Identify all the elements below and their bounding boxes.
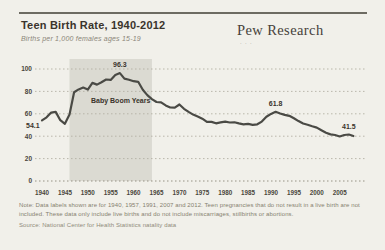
line-chart: 0204060801001940194519501955196019651970…	[18, 55, 374, 203]
chart-source: Source: National Center for Health Stati…	[19, 222, 359, 228]
x-axis-tick-1955: 1955	[104, 189, 119, 196]
x-axis-tick-1980: 1980	[218, 189, 233, 196]
data-label-41.5: 41.5	[342, 123, 356, 130]
chart-title: Teen Birth Rate, 1940-2012	[21, 19, 165, 31]
chart-subtitle: Births per 1,000 females ages 15-19	[21, 35, 141, 42]
teen-birth-rate-chart-canvas: 0204060801001940194519501955196019651970…	[18, 55, 374, 203]
x-axis-tick-1990: 1990	[264, 189, 279, 196]
data-label-54.1: 54.1	[26, 122, 40, 129]
pew-research-logo: Pew Research	[237, 22, 324, 39]
x-axis-tick-1945: 1945	[58, 189, 73, 196]
x-axis-tick-1985: 1985	[241, 189, 256, 196]
y-axis-tick-60: 60	[25, 110, 33, 117]
y-axis-tick-40: 40	[25, 133, 33, 140]
pew-research-logo-subtext: · · ·	[240, 40, 253, 46]
x-axis-tick-1975: 1975	[195, 189, 210, 196]
x-axis-tick-1950: 1950	[81, 189, 96, 196]
x-axis-tick-1970: 1970	[172, 189, 187, 196]
top-divider-rule	[19, 12, 367, 14]
y-axis-tick-100: 100	[21, 65, 32, 72]
baby-boom-shaded-region	[69, 59, 151, 181]
x-axis-tick-1995: 1995	[287, 189, 302, 196]
data-label-61.8: 61.8	[269, 100, 283, 107]
x-axis-tick-1940: 1940	[35, 189, 50, 196]
x-axis-tick-2005: 2005	[333, 189, 348, 196]
data-label-96.3: 96.3	[113, 61, 127, 68]
baby-boom-label: Baby Boom Years	[91, 97, 151, 105]
x-axis-tick-1960: 1960	[127, 189, 142, 196]
y-axis-tick-0: 0	[28, 177, 32, 184]
y-axis-tick-80: 80	[25, 88, 33, 95]
chart-footnote: Note: Data labels shown are for 1940, 19…	[19, 201, 369, 218]
y-axis-tick-20: 20	[25, 155, 33, 162]
x-axis-tick-1965: 1965	[149, 189, 164, 196]
x-axis-tick-2000: 2000	[310, 189, 325, 196]
